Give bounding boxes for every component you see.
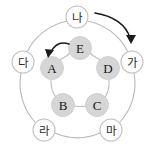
outer-arrow — [95, 13, 136, 44]
outer-node-ga[interactable]: 가 — [121, 51, 143, 73]
inner-arrow-curve — [51, 43, 69, 52]
outer-edge-ra-da — [20, 73, 35, 122]
diagram-canvas: E A B C D 나 가 마 — [0, 0, 155, 150]
inner-node-C-label: C — [93, 98, 102, 113]
outer-node-da[interactable]: 다 — [12, 51, 34, 73]
outer-node-na-label: 나 — [72, 11, 83, 25]
outer-node-ma[interactable]: 마 — [100, 119, 122, 141]
inner-edge-e-a — [58, 53, 70, 60]
inner-node-C[interactable]: C — [86, 94, 109, 117]
outer-edge-ma-ra — [55, 133, 100, 138]
ring-diagram-svg: E A B C D 나 가 마 — [0, 0, 155, 150]
inner-node-B[interactable]: B — [52, 94, 75, 117]
inner-node-E-label: E — [76, 41, 84, 56]
outer-arrow-head — [126, 35, 136, 44]
outer-node-ga-label: 가 — [127, 56, 138, 70]
outer-node-ra-label: 라 — [39, 124, 50, 138]
outer-node-na[interactable]: 나 — [66, 6, 88, 28]
inner-edge-b-c — [75, 106, 86, 107]
outer-edge-da-na — [27, 21, 68, 52]
inner-node-A-label: A — [47, 61, 57, 76]
outer-node-da-label: 다 — [18, 56, 29, 70]
inner-node-A[interactable]: A — [41, 57, 64, 80]
inner-node-E[interactable]: E — [69, 37, 92, 60]
outer-node-ma-label: 마 — [106, 124, 117, 138]
inner-node-B-label: B — [59, 98, 68, 113]
outer-edge-ga-ma — [120, 73, 135, 122]
inner-edge-d-e — [90, 53, 102, 60]
inner-node-D[interactable]: D — [97, 57, 120, 80]
inner-arrow — [45, 43, 69, 58]
outer-node-ra[interactable]: 라 — [33, 119, 55, 141]
inner-node-D-label: D — [103, 61, 112, 76]
